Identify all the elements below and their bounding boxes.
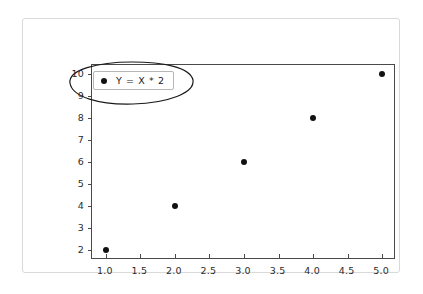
- y-tick-mark: [88, 118, 92, 119]
- y-tick-label: 6: [57, 155, 84, 166]
- x-tick-mark: [348, 254, 349, 258]
- data-point: [310, 115, 316, 121]
- figure-frame: 1.01.52.02.53.03.54.04.55.0 2345678910 Y…: [22, 18, 400, 273]
- data-point: [241, 159, 247, 165]
- data-point: [172, 203, 178, 209]
- legend-label: Y = X * 2: [116, 75, 165, 86]
- y-tick-label: 5: [57, 177, 84, 188]
- y-tick-label: 8: [57, 111, 84, 122]
- y-tick-label: 3: [57, 222, 84, 233]
- y-tick-mark: [88, 206, 92, 207]
- y-tick-mark: [88, 184, 92, 185]
- y-tick-label: 9: [57, 89, 84, 100]
- legend: Y = X * 2: [93, 71, 174, 90]
- data-point: [379, 71, 385, 77]
- x-tick-mark: [279, 254, 280, 258]
- x-tick-label: 1.0: [97, 265, 113, 276]
- x-tick-label: 3.0: [235, 265, 251, 276]
- x-tick-mark: [140, 254, 141, 258]
- x-tick-mark: [209, 254, 210, 258]
- y-tick-label: 10: [57, 67, 84, 78]
- y-tick-mark: [88, 140, 92, 141]
- y-tick-mark: [88, 162, 92, 163]
- x-tick-label: 2.5: [201, 265, 217, 276]
- y-tick-label: 4: [57, 200, 84, 211]
- legend-marker-icon: [101, 78, 107, 84]
- x-tick-mark: [175, 254, 176, 258]
- x-tick-label: 5.0: [373, 265, 389, 276]
- y-tick-label: 2: [57, 244, 84, 255]
- y-tick-mark: [88, 74, 92, 75]
- chart-screenshot: 1.01.52.02.53.03.54.04.55.0 2345678910 Y…: [0, 0, 423, 294]
- y-tick-mark: [88, 250, 92, 251]
- x-tick-mark: [106, 254, 107, 258]
- x-tick-label: 2.0: [166, 265, 182, 276]
- x-tick-label: 3.5: [270, 265, 286, 276]
- y-tick-label: 7: [57, 133, 84, 144]
- x-tick-label: 1.5: [132, 265, 148, 276]
- x-tick-label: 4.5: [339, 265, 355, 276]
- data-point: [103, 247, 109, 253]
- x-tick-mark: [313, 254, 314, 258]
- y-tick-mark: [88, 96, 92, 97]
- y-tick-mark: [88, 228, 92, 229]
- plot-axes: [91, 64, 395, 259]
- x-tick-mark: [244, 254, 245, 258]
- x-tick-label: 4.0: [304, 265, 320, 276]
- x-tick-mark: [382, 254, 383, 258]
